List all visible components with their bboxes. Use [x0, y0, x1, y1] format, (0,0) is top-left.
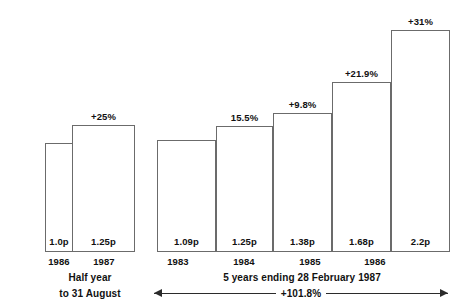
bar-five-years-1985 [273, 113, 332, 252]
bar-category-five-years-1983: 1983 [156, 256, 200, 267]
bar-five-years-1984 [216, 126, 273, 252]
total-growth-arrow: +101.8% [154, 285, 448, 301]
bar-growth-five-years-1985: +9.8% [273, 99, 332, 110]
bar-value-half-year-1987: 1.25p [72, 236, 135, 247]
bar-category-half-year-1987: 1987 [86, 256, 122, 267]
arrow-head-right-icon [440, 289, 448, 297]
bar-value-five-years-1985: 1.38p [273, 236, 332, 247]
bar-value-five-years-1986: 1.68p [332, 236, 391, 247]
bar-category-five-years-1984: 1984 [222, 256, 266, 267]
bar-five-years-1986 [332, 82, 391, 252]
bar-five-years-1987 [391, 30, 450, 252]
group-caption-five-years: 5 years ending 28 February 1987 [152, 272, 452, 283]
bar-value-five-years-1983: 1.09p [157, 236, 216, 247]
bar-category-half-year-1986: 1986 [41, 256, 77, 267]
total-growth-label: +101.8% [276, 288, 326, 299]
bar-value-five-years-1984: 1.25p [216, 236, 273, 247]
bar-half-year-1987 [72, 125, 135, 252]
bar-growth-five-years-1987: +31% [391, 16, 450, 27]
bar-value-five-years-1987: 2.2p [391, 236, 450, 247]
group-caption-half-year-line1: Half year [30, 272, 150, 283]
bar-growth-half-year-1987: +25% [72, 111, 135, 122]
bar-category-five-years-1985: 1985 [288, 256, 332, 267]
bar-value-half-year-1986: 1.0p [45, 236, 73, 247]
arrow-head-left-icon [154, 289, 162, 297]
group-caption-half-year-line2: to 31 August [30, 288, 150, 299]
bar-chart: 1.0p 1986 +25% 1.25p 1987 Half year to 3… [0, 0, 454, 307]
bar-growth-five-years-1984: 15.5% [216, 112, 273, 123]
bar-growth-five-years-1986: +21.9% [332, 68, 391, 79]
bar-category-five-years-1986: 1986 [353, 256, 397, 267]
